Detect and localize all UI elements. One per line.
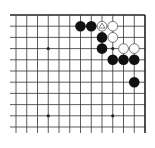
black-stone-disc (75, 21, 86, 32)
go-board (0, 0, 155, 148)
white-stone (108, 33, 118, 43)
black-stone-disc (97, 32, 108, 43)
black-stone (129, 55, 140, 66)
white-stone (129, 44, 139, 54)
white-stone-disc (119, 44, 129, 54)
star-point (47, 47, 50, 50)
star-point (47, 114, 50, 117)
black-stone-disc (107, 55, 118, 66)
black-stone-disc (97, 43, 108, 54)
stones-layer (75, 21, 139, 88)
white-stone-disc (108, 21, 118, 31)
white-stone (119, 44, 129, 54)
black-stone (129, 77, 140, 88)
board-grid (10, 15, 145, 133)
black-stone (75, 21, 86, 32)
black-stone (97, 32, 108, 43)
white-stone (108, 21, 118, 31)
white-stone (97, 21, 107, 31)
star-point (111, 47, 114, 50)
black-stone (97, 43, 108, 54)
black-stone-disc (129, 77, 140, 88)
black-stone-disc (118, 55, 129, 66)
black-stone-disc (86, 21, 97, 32)
black-stone (86, 21, 97, 32)
white-stone-disc (108, 33, 118, 43)
black-stone (118, 55, 129, 66)
black-stone-disc (129, 55, 140, 66)
white-stone-disc (129, 44, 139, 54)
black-stone (107, 55, 118, 66)
star-point (111, 114, 114, 117)
